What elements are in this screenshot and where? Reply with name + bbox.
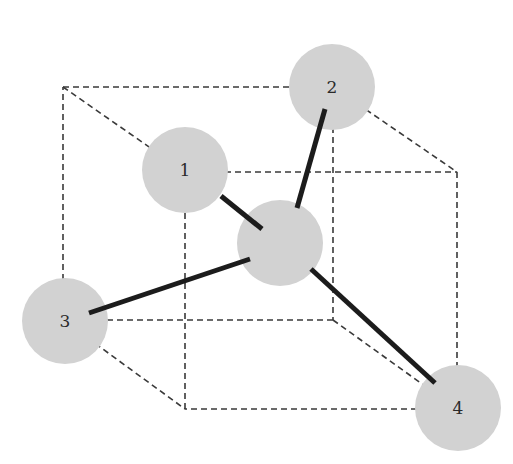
bond-center-to-4 — [311, 269, 435, 383]
atom-circle — [237, 200, 323, 286]
atom-1: 1 — [142, 127, 228, 213]
atom-label: 2 — [327, 77, 338, 97]
atom-2: 2 — [289, 44, 375, 130]
center-atom — [237, 200, 323, 286]
atoms: 1234 — [22, 44, 501, 451]
atom-label: 4 — [453, 398, 464, 418]
atom-3: 3 — [22, 278, 108, 364]
atom-label: 1 — [180, 160, 191, 180]
bond-center-to-3 — [89, 259, 250, 313]
diagram-canvas: 1234 — [0, 0, 513, 464]
atom-label: 3 — [60, 311, 71, 331]
molecule-diagram: 1234 — [0, 0, 513, 464]
